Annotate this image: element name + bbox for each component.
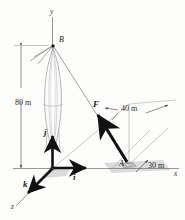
unit-vector-k xyxy=(28,169,53,194)
perspective-guides xyxy=(53,100,177,169)
y-axis-label: y xyxy=(50,8,53,16)
z-axis-label: z xyxy=(11,203,14,211)
x-axis-label: x xyxy=(174,170,177,178)
unit-vector-label-j: j xyxy=(44,128,47,137)
force-vector-F xyxy=(98,115,127,162)
point-label-A: A xyxy=(119,160,124,168)
point-markers xyxy=(51,44,54,47)
force-vector-label-F: F xyxy=(93,100,99,109)
point-label-B: B xyxy=(59,36,64,44)
lambda-pointer xyxy=(112,113,118,120)
unit-direction-label-lambda: λ xyxy=(108,121,112,130)
unit-vector-label-k: k xyxy=(23,180,28,189)
dimension-label-height: 80 m xyxy=(15,99,31,107)
figure-container: y x z B A F λ i j k 80 m 40 m 30 m xyxy=(0,0,185,220)
dimension-label-depth: 40 m xyxy=(121,105,137,113)
dimension-label-offset: 30 m xyxy=(148,162,164,170)
unit-vector-label-i: i xyxy=(73,173,76,182)
